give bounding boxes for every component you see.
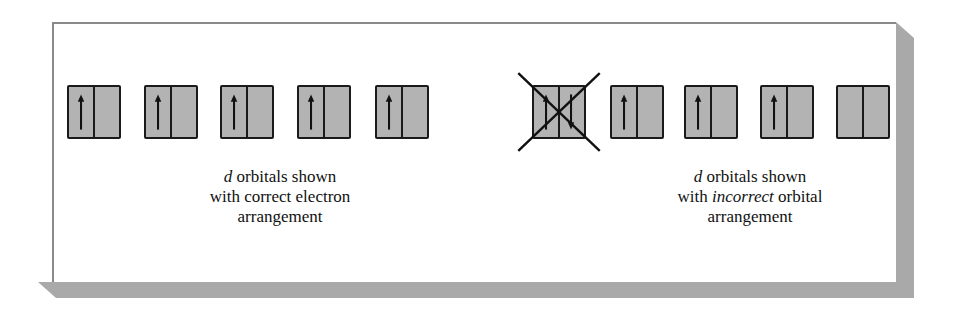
panel-shadow-right [896,22,914,298]
orbital-box-incorrect-2 [610,85,664,139]
orbital-box-correct-2 [144,85,198,139]
cross-out-x-icon [534,87,584,137]
orbital-box-correct-5 [375,85,429,139]
caption-line-2: with correct electron [130,187,430,207]
up-arrow-icon [222,87,272,137]
caption-text: orbitals shown [232,167,336,186]
up-arrow-icon [377,87,427,137]
orbital-box-correct-1 [67,85,121,139]
orbital-box-correct-4 [297,85,351,139]
caption-correct: d orbitals shown with correct electron a… [130,167,430,227]
orbital-box-empty [836,85,890,139]
caption-text: orbital [774,187,823,206]
caption-line-1: d orbitals shown [130,167,430,187]
orbital-box-incorrect-4 [760,85,814,139]
orbital-box-incorrect-3 [684,85,738,139]
panel-shadow-bottom [38,282,914,298]
caption-line-2: with incorrect orbital [600,187,900,207]
caption-text: with [678,187,712,206]
orbital-box-correct-3 [220,85,274,139]
caption-text: orbitals shown [702,167,806,186]
orbital-divider [862,87,865,137]
up-arrow-icon [69,87,119,137]
up-arrow-icon [762,87,812,137]
up-arrow-icon [299,87,349,137]
caption-line-1: d orbitals shown [600,167,900,187]
orbital-box-crossed-out [532,85,586,139]
figure-panel [52,22,896,282]
caption-italic-incorrect: incorrect [712,187,774,206]
caption-line-3: arrangement [130,207,430,227]
caption-line-3: arrangement [600,207,900,227]
up-arrow-icon [686,87,736,137]
caption-incorrect: d orbitals shown with incorrect orbital … [600,167,900,227]
up-arrow-icon [146,87,196,137]
up-arrow-icon [612,87,662,137]
